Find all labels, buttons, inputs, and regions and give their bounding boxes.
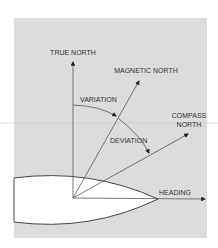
deviation-label: DEVIATION — [110, 137, 147, 144]
variation-label: VARIATION — [80, 96, 117, 103]
compass-diagram: TRUE NORTH MAGNETIC NORTH COMPASS NORTH … — [0, 0, 218, 248]
compass-north-label-line1: COMPASS — [172, 112, 207, 119]
heading-label: HEADING — [159, 189, 191, 196]
magnetic-north-label: MAGNETIC NORTH — [114, 67, 178, 74]
compass-north-label-line2: NORTH — [177, 121, 202, 128]
true-north-label: TRUE NORTH — [50, 49, 96, 56]
